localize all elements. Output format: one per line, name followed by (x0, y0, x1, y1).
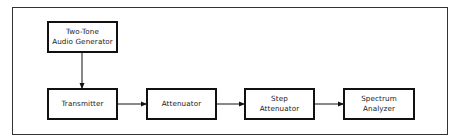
block-step-attenuator: Step Attenuator (244, 88, 315, 120)
block-transmitter: Transmitter (47, 88, 118, 120)
block-label-line: Step (271, 94, 288, 104)
block-label-line: Audio Generator (52, 37, 113, 47)
block-label-line: Attenuator (260, 104, 300, 114)
block-label-line: Transmitter (61, 99, 103, 109)
block-label-line: Analyzer (363, 104, 395, 114)
block-label-line: Attenuator (162, 99, 202, 109)
block-label-line: Two-Tone (66, 27, 99, 37)
block-spectrum-analyzer: Spectrum Analyzer (343, 88, 415, 120)
block-attenuator: Attenuator (146, 88, 217, 120)
block-two-tone-audio-generator: Two-Tone Audio Generator (47, 21, 118, 53)
block-label-line: Spectrum (361, 94, 397, 104)
